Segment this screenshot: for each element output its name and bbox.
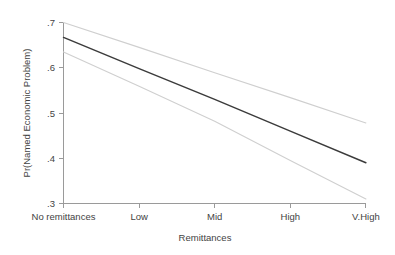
x-tick-labels: No remittances Low Mid High V.High: [32, 211, 380, 222]
lower-ci-line: [64, 52, 366, 199]
y-tick-labels: .7 .6 .5 .4 .3: [47, 17, 55, 209]
y-tick-label: .4: [47, 153, 55, 164]
x-tick-label: Mid: [207, 211, 222, 222]
x-tick-label: No remittances: [32, 211, 96, 222]
y-axis-title: Pr(Named Economic Problem): [21, 49, 32, 178]
chart-figure: .7 .6 .5 .4 .3 No remittances Low Mid Hi…: [0, 0, 395, 255]
y-tick-marks: [59, 23, 64, 204]
data-series-group: [64, 23, 366, 199]
plot-frame: [64, 22, 367, 204]
x-tick-label: High: [281, 211, 301, 222]
margins-plot: .7 .6 .5 .4 .3 No remittances Low Mid Hi…: [0, 0, 395, 255]
y-tick-label: .3: [47, 198, 55, 209]
predicted-probability-line: [64, 37, 366, 162]
y-tick-label: .7: [47, 17, 55, 28]
y-tick-label: .5: [47, 108, 55, 119]
x-tick-label: V.High: [352, 211, 380, 222]
x-axis-title: Remittances: [179, 232, 232, 243]
y-tick-label: .6: [47, 62, 55, 73]
x-tick-label: Low: [130, 211, 148, 222]
x-tick-marks: [64, 204, 366, 209]
